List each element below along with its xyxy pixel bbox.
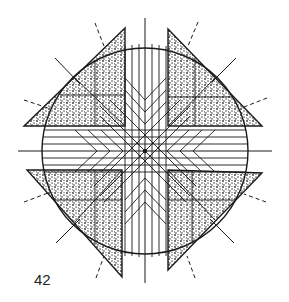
star-quilt-diagram bbox=[0, 0, 289, 302]
figure-number: 42 bbox=[34, 271, 51, 288]
center-point bbox=[143, 149, 147, 153]
